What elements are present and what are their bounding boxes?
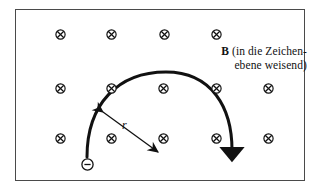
- negative-charge-icon: [81, 158, 94, 171]
- field-into-page-icon: [106, 133, 117, 144]
- field-into-page-icon: [263, 133, 274, 144]
- field-into-page-icon: [263, 83, 274, 94]
- field-into-page-icon: [211, 133, 222, 144]
- field-into-page-icon: [55, 83, 66, 94]
- field-into-page-icon: [106, 29, 117, 40]
- field-into-page-icon: [158, 83, 169, 94]
- physics-diagram: B (in die Zeichen- ebene weisend) r: [0, 0, 321, 193]
- b-field-label: B (in die Zeichen- ebene weisend): [175, 44, 307, 72]
- b-field-description-line-1: (in die Zeichen-: [229, 45, 307, 57]
- field-into-page-icon: [55, 133, 66, 144]
- field-into-page-icon: [211, 83, 222, 94]
- b-field-description-line-2: ebene weisend): [234, 59, 307, 71]
- field-into-page-icon: [211, 29, 222, 40]
- field-into-page-icon: [106, 83, 117, 94]
- field-into-page-icon: [158, 133, 169, 144]
- field-into-page-icon: [159, 29, 170, 40]
- field-into-page-icon: [55, 29, 66, 40]
- b-vector-symbol: B: [221, 45, 229, 57]
- radius-label: r: [122, 118, 127, 133]
